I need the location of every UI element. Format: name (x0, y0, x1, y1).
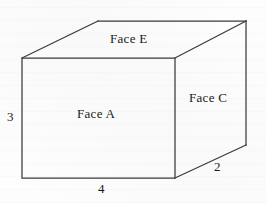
bottom-right-diagonal-edge (175, 145, 246, 178)
face-label-c: Face C (189, 91, 227, 104)
top-right-diagonal-edge (175, 21, 246, 58)
dimension-label-width: 4 (98, 182, 105, 195)
face-label-a: Face A (77, 107, 115, 120)
face-label-e: Face E (110, 32, 148, 45)
top-left-diagonal-edge (22, 21, 98, 58)
figure-canvas: Face E Face A Face C 3 4 2 (0, 0, 266, 203)
dimension-label-height: 3 (7, 110, 14, 123)
dimension-label-depth: 2 (214, 160, 221, 173)
